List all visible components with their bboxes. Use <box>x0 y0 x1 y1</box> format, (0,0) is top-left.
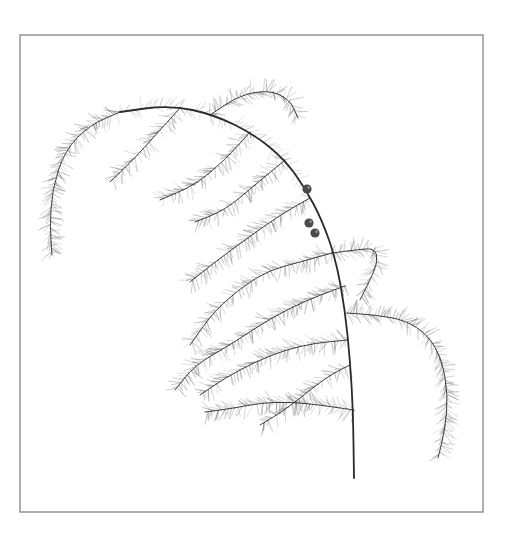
needle <box>231 375 234 386</box>
needle <box>288 161 298 165</box>
needle <box>444 433 456 439</box>
picture-frame <box>20 35 483 512</box>
needle <box>225 210 227 216</box>
needle <box>233 192 245 193</box>
needle <box>174 114 175 123</box>
needle <box>238 234 251 236</box>
needle <box>249 268 261 275</box>
needle <box>270 270 277 282</box>
needle <box>259 135 267 139</box>
needle <box>311 299 314 311</box>
needle <box>211 387 214 400</box>
needle <box>376 266 386 270</box>
needle <box>49 184 54 186</box>
needle <box>256 404 259 415</box>
needle <box>218 166 221 172</box>
needle <box>317 296 319 301</box>
needle <box>250 281 251 295</box>
needle <box>193 215 206 218</box>
needle <box>113 179 116 190</box>
needle <box>204 360 207 372</box>
needle <box>265 392 273 403</box>
needle <box>313 343 318 356</box>
needle <box>356 314 360 323</box>
needle <box>307 200 310 207</box>
needle <box>227 300 230 305</box>
needle <box>237 340 238 350</box>
needle <box>196 336 198 341</box>
needle <box>336 253 341 259</box>
needle <box>285 203 297 206</box>
needle <box>255 134 263 135</box>
needle <box>282 339 292 349</box>
needle <box>448 401 459 405</box>
needle <box>376 252 387 255</box>
needle <box>277 415 278 427</box>
needle <box>243 94 252 104</box>
needle <box>55 148 68 150</box>
needle <box>172 195 174 203</box>
needle <box>340 409 344 417</box>
needle <box>213 355 216 360</box>
needle <box>270 84 277 90</box>
needle <box>238 236 251 237</box>
needle <box>267 272 270 279</box>
needle <box>244 138 246 148</box>
needle <box>316 287 327 293</box>
needle <box>51 207 62 208</box>
needle <box>447 410 458 417</box>
needle <box>194 339 197 344</box>
needle <box>301 303 302 310</box>
needle <box>318 406 324 417</box>
needle <box>169 381 181 382</box>
needle <box>51 237 65 238</box>
needle <box>240 90 242 95</box>
needle <box>314 387 316 393</box>
needle <box>179 375 187 376</box>
needle <box>161 192 168 197</box>
needle <box>210 357 213 365</box>
needle <box>277 86 282 93</box>
needle <box>51 218 64 221</box>
needle <box>267 408 277 415</box>
needle <box>299 403 304 413</box>
needle <box>296 179 299 187</box>
needle <box>272 261 281 267</box>
needle <box>314 298 315 310</box>
needle <box>48 231 50 243</box>
needle <box>361 273 373 275</box>
needle <box>296 262 300 274</box>
needle <box>177 111 182 122</box>
needle <box>245 285 250 298</box>
needle <box>116 176 120 181</box>
needle <box>242 242 244 248</box>
needle <box>443 363 456 365</box>
needle <box>123 170 125 176</box>
needle <box>447 413 452 419</box>
needle <box>244 229 254 233</box>
needle <box>340 370 344 378</box>
needle <box>267 166 275 168</box>
needle <box>332 342 334 355</box>
needle <box>255 329 261 338</box>
needle <box>276 346 282 352</box>
needle <box>295 206 297 216</box>
branch-group <box>51 92 448 458</box>
needle <box>234 373 235 382</box>
needle <box>89 113 99 121</box>
needle <box>230 251 233 265</box>
needle <box>47 218 50 224</box>
needle <box>313 382 318 384</box>
needle <box>220 200 232 204</box>
needle <box>338 409 343 414</box>
needle <box>207 269 211 279</box>
needle <box>204 271 206 284</box>
needle <box>291 202 300 204</box>
needle <box>200 382 211 387</box>
needle <box>299 258 304 261</box>
needle <box>57 175 65 180</box>
needle <box>274 210 287 211</box>
needle <box>243 85 250 94</box>
needle <box>433 341 442 344</box>
needle <box>247 135 248 142</box>
